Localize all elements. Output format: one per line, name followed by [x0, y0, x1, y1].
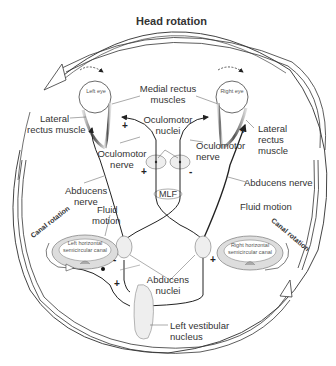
minus-sign-oculomotor-right: - [189, 166, 192, 177]
fluid-motion-left-label-1: Fluid [97, 204, 118, 215]
right-eye-label: Right eye [218, 88, 246, 95]
plus-sign-right-lateral: + [240, 125, 246, 136]
oculomotor-nerve-right-label-1: Oculomotor [196, 140, 245, 151]
lateral-rectus-right-label-1: Lateral [258, 123, 287, 134]
abducens-nuclei-graphic [116, 236, 211, 258]
left-eye-graphic [79, 67, 111, 148]
abducens-nuclei-label-1: Abducens [140, 274, 196, 285]
plus-sign-left-medial: + [122, 120, 128, 131]
lateral-rectus-right-label-3: muscle [258, 145, 288, 156]
left-canal-label-2: semicircular canal [58, 247, 112, 254]
medial-rectus-label-1: Medial rectus [138, 83, 198, 94]
fluid-motion-right-label: Fluid motion [240, 201, 292, 212]
medial-rectus-label-2: muscles [138, 94, 198, 105]
fluid-motion-left-label-2: motion [92, 215, 121, 226]
vor-diagram: Head rotation Left eye Right eye Medial … [0, 0, 336, 366]
left-canal-label-1: Left horizontal [58, 240, 112, 247]
plus-sign-abducens-right: + [210, 254, 216, 265]
abducens-nerve-left-label-2: nerve [74, 196, 98, 207]
oculomotor-nerve-right-label-2: nerve [196, 151, 220, 162]
vestibular-nucleus-label-1: Left vestibular [170, 320, 229, 331]
plus-sign-canal: + [114, 278, 120, 289]
abducens-nerve-right-label: Abducens nerve [244, 177, 313, 188]
abducens-nerve-left-label-1: Abducens [65, 185, 107, 196]
vestibular-nucleus-label-2: nucleus [170, 331, 203, 342]
right-canal-label-2: semicircular canal [223, 249, 277, 256]
lateral-rectus-left-label-2: rectus muscle [27, 124, 86, 135]
oculomotor-nuclei-label-2: nuclei [138, 125, 198, 136]
right-canal-label-1: Right horizontal [223, 242, 277, 249]
lateral-rectus-right-label-2: rectus [258, 134, 284, 145]
minus-sign-abducens-left: - [113, 254, 116, 265]
oculomotor-nuclei-graphic [146, 155, 190, 169]
oculomotor-nerve-left-label-1: Oculomotor [94, 148, 150, 159]
abducens-nuclei-label-2: nuclei [140, 285, 196, 296]
oculomotor-nuclei-label-1: Oculomotor [138, 114, 198, 125]
plus-sign-oculomotor-left: + [141, 166, 147, 177]
left-eye-label: Left eye [82, 88, 110, 95]
title-head-rotation: Head rotation [136, 16, 207, 27]
lateral-rectus-left-label-1: Lateral [40, 113, 69, 124]
mlf-label: MLF [154, 189, 182, 200]
